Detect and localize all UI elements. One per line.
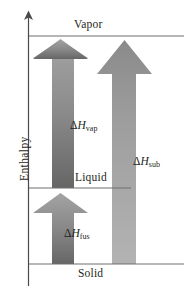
subscript-vap: vap	[86, 124, 98, 133]
phase-label-vapor: Vapor	[74, 19, 102, 31]
h-symbol-vap: H	[77, 119, 85, 131]
h-symbol-sub: H	[140, 155, 148, 167]
subscript-fus: fus	[80, 232, 90, 241]
subscript-sub: sub	[149, 160, 160, 169]
arrow-sublimation	[97, 40, 152, 264]
enthalpy-label-vaporization: ΔHvap	[70, 120, 98, 133]
h-symbol-fus: H	[71, 227, 79, 239]
arrow-vaporization	[33, 40, 88, 188]
arrow-vaporization-head	[33, 39, 88, 59]
phase-label-solid: Solid	[78, 268, 103, 280]
phase-label-liquid: Liquid	[75, 172, 107, 184]
y-axis-title: Enthalpy	[19, 136, 31, 181]
enthalpy-label-fusion: ΔHfus	[64, 228, 90, 241]
enthalpy-label-sublimation: ΔHsub	[133, 156, 160, 169]
enthalpy-diagram: Enthalpy Vapor Liquid Solid ΔHvap ΔHsub …	[0, 0, 184, 291]
